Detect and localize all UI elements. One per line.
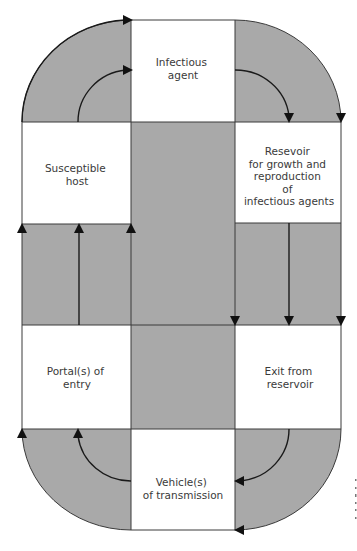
chain-of-infection-diagram: Infectious agent Susceptible host Resevo…: [0, 0, 357, 551]
box-portal-of-entry: [22, 325, 131, 429]
margin-artifacts: [355, 479, 357, 519]
box-exit-from-reservoir: [235, 325, 341, 429]
label-exit-from-reservoir: Exit from reservoir: [265, 365, 316, 390]
